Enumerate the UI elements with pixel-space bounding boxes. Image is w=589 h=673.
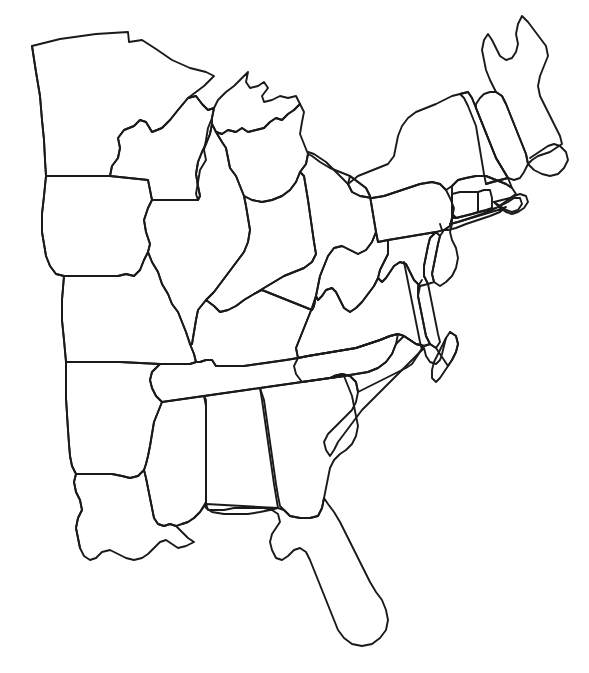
state-outline-alabama	[204, 388, 278, 514]
state-outline-new-york	[348, 92, 512, 198]
state-outline-west-virginia	[316, 232, 388, 312]
map-figure: Eastern United States Blank Outline Map	[0, 0, 589, 673]
state-outline-tennessee	[150, 334, 398, 402]
maine-coastline-detail	[528, 144, 568, 176]
state-outline-south-carolina	[324, 336, 424, 456]
state-outline-louisiana	[74, 470, 194, 560]
state-outline-vermont	[460, 92, 508, 184]
state-outline-connecticut	[452, 192, 478, 218]
state-outline-mississippi	[144, 396, 206, 526]
state-outline-florida	[206, 498, 388, 646]
state-outline-kentucky	[190, 290, 316, 366]
state-outline-minnesota	[32, 32, 214, 176]
state-outline-iowa	[42, 176, 152, 276]
state-outline-georgia	[260, 376, 358, 518]
state-outline-maine	[482, 16, 562, 164]
us-east-outline-map: Eastern United States Blank Outline Map	[0, 0, 589, 673]
map-western-edge	[32, 46, 82, 548]
state-outline-virginia	[296, 262, 430, 358]
state-outline-rhode-island	[478, 190, 492, 212]
state-outline-pennsylvania	[348, 176, 454, 242]
state-outline-michigan-upper-peninsula	[188, 72, 300, 134]
outer-banks-detail	[432, 332, 458, 382]
state-outline-michigan-lower-peninsula	[216, 104, 308, 202]
